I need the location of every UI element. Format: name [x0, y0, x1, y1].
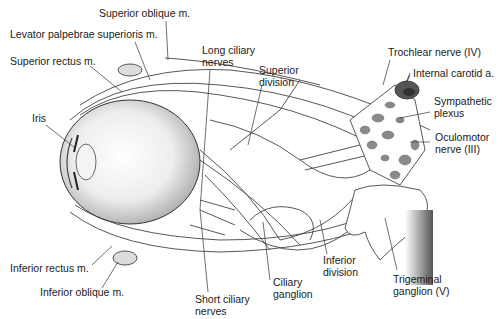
label-iris: Iris	[32, 112, 46, 124]
label-line-2: nerves	[202, 56, 255, 68]
label-line-2: division	[259, 76, 299, 88]
label-oculomotor-nerve: Oculomotor nerve (III)	[435, 131, 489, 155]
label-line-2: plexus	[434, 107, 492, 119]
label-line-1: Oculomotor	[435, 131, 489, 143]
label-superior-oblique: Superior oblique m.	[99, 7, 190, 19]
label-line-2: ganglion	[273, 288, 313, 300]
label-trigeminal-ganglion: Trigeminal ganglion (V)	[393, 273, 450, 297]
label-line-2: division	[323, 266, 358, 278]
label-superior-division: Superior division	[259, 64, 299, 88]
label-inferior-oblique: Inferior oblique m.	[40, 286, 124, 298]
label-line-1: Inferior	[323, 254, 358, 266]
eyeball	[60, 100, 200, 224]
label-inferior-division: Inferior division	[323, 254, 358, 278]
label-ciliary-ganglion: Ciliary ganglion	[273, 276, 313, 300]
label-internal-carotid: Internal carotid a.	[413, 67, 494, 79]
label-trochlear-nerve: Trochlear nerve (IV)	[388, 46, 481, 58]
label-line-1: Superior	[259, 64, 299, 76]
label-inferior-rectus: Inferior rectus m.	[10, 262, 89, 274]
label-line-1: Trigeminal	[393, 273, 450, 285]
internal-carotid-artery	[350, 81, 425, 185]
label-line-1: Sympathetic	[434, 95, 492, 107]
label-line-1: Long ciliary	[202, 44, 255, 56]
label-short-ciliary-nerves: Short ciliary nerves	[195, 293, 250, 317]
label-line-1: Short ciliary	[195, 293, 250, 305]
label-sympathetic-plexus: Sympathetic plexus	[434, 95, 492, 119]
label-superior-rectus: Superior rectus m.	[10, 55, 96, 67]
label-line-2: nerve (III)	[435, 143, 489, 155]
label-long-ciliary-nerves: Long ciliary nerves	[202, 44, 255, 68]
label-line-1: Ciliary	[273, 276, 313, 288]
label-levator-palpebrae: Levator palpebrae superioris m.	[10, 28, 158, 40]
label-line-2: nerves	[195, 305, 250, 317]
label-line-2: ganglion (V)	[393, 285, 450, 297]
